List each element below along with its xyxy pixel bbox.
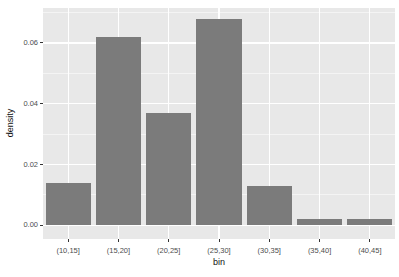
x-tick-mark [219,239,220,242]
y-tick-mark [40,103,43,104]
x-tick-mark [68,239,69,242]
histogram-bar [347,219,392,225]
plot-panel [43,8,395,239]
x-tick-mark [269,239,270,242]
histogram-bar [297,219,342,225]
y-tick-mark [40,164,43,165]
x-tick-label: (15,20] [93,246,143,256]
x-tick-mark [168,239,169,242]
x-tick-mark [369,239,370,242]
histogram-bar [46,183,91,226]
x-tick-mark [319,239,320,242]
y-tick-label: 0.00 [8,220,38,230]
histogram-bar [146,113,191,225]
y-tick-label: 0.04 [8,99,38,109]
x-tick-label: (40,45] [345,246,395,256]
x-tick-label: (25,30] [194,246,244,256]
grid-category-line [319,8,320,239]
y-tick-label: 0.06 [8,38,38,48]
histogram-bar [96,37,141,225]
y-tick-label: 0.02 [8,160,38,170]
y-axis-title: density [5,109,15,138]
x-tick-label: (30,35] [244,246,294,256]
y-tick-mark [40,42,43,43]
x-tick-mark [118,239,119,242]
histogram-bar [247,186,292,226]
histogram-figure: density 0.000.020.040.06(10,15](15,20](2… [0,0,399,277]
x-tick-label: (35,40] [295,246,345,256]
histogram-bar [196,19,241,226]
y-tick-mark [40,225,43,226]
x-tick-label: (20,25] [144,246,194,256]
x-tick-label: (10,15] [43,246,93,256]
x-axis-title: bin [213,257,225,267]
grid-category-line [369,8,370,239]
